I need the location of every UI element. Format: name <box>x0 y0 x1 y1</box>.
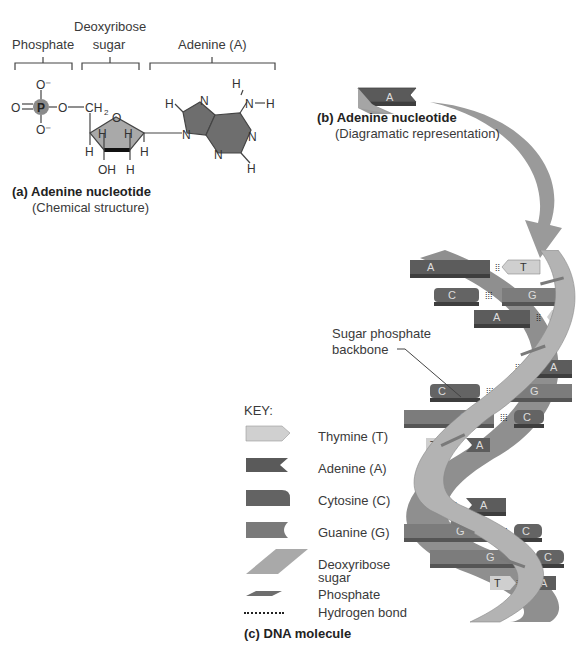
atom-N9: N <box>182 128 191 142</box>
atom-H-ring-left: H <box>165 97 174 111</box>
phosphate-group <box>22 90 84 123</box>
svg-text:C: C <box>523 411 531 423</box>
atom-H1: H <box>98 127 107 141</box>
backbone-label-line1: Sugar phosphate <box>332 326 431 341</box>
key-label-hydrogen-bond: Hydrogen bond <box>318 606 407 620</box>
part-c-caption-title: (c) DNA molecule <box>244 626 351 641</box>
atom-OH: OH <box>98 163 116 177</box>
svg-text:C: C <box>448 289 456 301</box>
svg-text:A: A <box>480 499 488 511</box>
svg-text:⁞⁞⁞: ⁞⁞⁞ <box>500 413 508 423</box>
svg-text:A: A <box>550 361 558 373</box>
atom-H-ring-bottom: H <box>247 162 256 176</box>
svg-text:G: G <box>528 289 537 301</box>
svg-text:⁞⁞: ⁞⁞ <box>495 263 500 273</box>
svg-text:A: A <box>427 261 435 273</box>
key-label-phosphate: Phosphate <box>318 588 380 602</box>
part-a-caption-sub: (Chemical structure) <box>32 200 149 215</box>
key-swatches <box>242 420 312 610</box>
backbone-leader-line <box>395 345 475 405</box>
atom-H-amine-top: H <box>232 77 241 91</box>
svg-text:A: A <box>476 439 484 451</box>
atom-H3: H <box>85 145 94 159</box>
atom-N7: N <box>200 94 209 108</box>
atom-O-ring: O <box>112 111 121 125</box>
chemical-structure-drawing: P O⁻ O⁻ O O CH 2 O H H H H OH H H N N N … <box>0 0 300 180</box>
svg-text:⁞⁞⁞: ⁞⁞⁞ <box>485 291 493 301</box>
atom-O-bottom: O⁻ <box>36 123 51 137</box>
atom-H2: H <box>124 127 133 141</box>
svg-text:C: C <box>522 525 530 537</box>
part-a-caption-title: (a) Adenine nucleotide <box>12 184 151 199</box>
svg-text:G: G <box>486 551 495 563</box>
phosphate-swatch-icon <box>246 591 282 596</box>
sugar-swatch-icon <box>246 549 308 574</box>
svg-text:G: G <box>530 385 539 397</box>
svg-text:C: C <box>544 551 552 563</box>
svg-text:T: T <box>520 261 527 273</box>
key-label-guanine: Guanine (G) <box>318 526 390 540</box>
thymine-swatch-icon <box>246 426 290 441</box>
key-label-cytosine: Cytosine (C) <box>318 494 390 508</box>
key-label-sugar-line2: sugar <box>318 571 351 585</box>
dna-double-helix: A⁞⁞T C⁞⁞⁞G A⁞⁞T ⁞⁞A C⁞⁞⁞G G⁞⁞⁞C T⁞⁞A ⁞⁞A… <box>390 250 584 630</box>
backbone-label-line2: backbone <box>332 342 388 357</box>
key-title: KEY: <box>244 403 273 418</box>
adenine-swatch-icon <box>246 458 288 472</box>
nucleotide-block-and-arrow: A <box>350 80 584 260</box>
hydrogen-bond-swatch-icon <box>244 612 284 614</box>
atom-CH2: CH <box>85 101 102 115</box>
key-label-adenine: Adenine (A) <box>318 462 387 476</box>
atom-O-top: O⁻ <box>36 78 51 92</box>
svg-text:T: T <box>494 577 501 589</box>
svg-text:⁞⁞: ⁞⁞ <box>536 313 541 323</box>
atom-O-link: O <box>58 101 67 115</box>
block-label-A: A <box>386 91 394 103</box>
guanine-swatch-icon <box>246 522 288 538</box>
atom-O-left: O <box>11 101 20 115</box>
atom-CH2-sub: 2 <box>104 108 109 117</box>
cytosine-swatch-icon <box>246 490 290 506</box>
atom-H4: H <box>140 145 149 159</box>
svg-text:A: A <box>493 311 501 323</box>
part-b-caption-sub: (Diagramatic representation) <box>335 126 500 141</box>
part-b-caption-title: (b) Adenine nucleotide <box>317 110 457 125</box>
atom-N-amine: N <box>245 97 254 111</box>
key-label-thymine: Thymine (T) <box>318 430 388 444</box>
atom-N1: N <box>248 130 257 144</box>
atom-P: P <box>37 101 45 115</box>
atom-H6: H <box>126 163 135 177</box>
brackets <box>15 57 275 70</box>
atom-N3: N <box>214 148 223 162</box>
atom-H-amine-right: H <box>266 97 275 111</box>
